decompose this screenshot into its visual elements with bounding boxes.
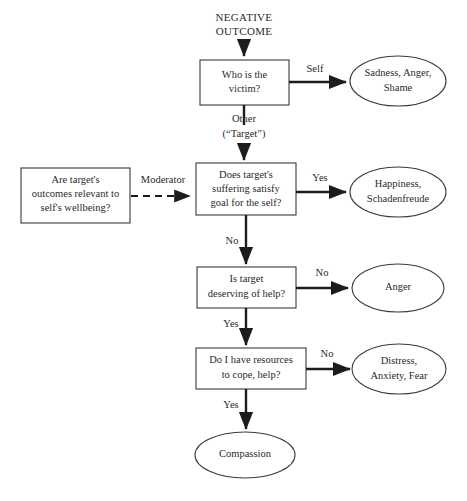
edge-suffering-no-label: No	[226, 235, 239, 246]
start-label-line2: OUTCOME	[216, 25, 273, 37]
edge-victim-to-other-label-line2: (“Target”)	[223, 128, 266, 140]
node-sadness-anger-shame-line-0: Sadness, Anger,	[365, 67, 432, 78]
node-happiness-schadenfreude-line-0: Happiness,	[375, 178, 421, 189]
node-are-targets-outcomes-relevant-line-1: outcomes relevant to	[32, 188, 119, 199]
node-are-targets-outcomes-relevant[interactable]: Are target's outcomes relevant to self's…	[21, 168, 130, 223]
flowchart-svg: NEGATIVE OUTCOME Who is the victim? Self…	[0, 0, 467, 501]
node-who-is-the-victim-line-0: Who is the	[222, 69, 268, 80]
start-label-line1: NEGATIVE	[216, 11, 273, 23]
node-does-target-suffering-satisfy-goal[interactable]: Does target's suffering satisfy goal for…	[196, 163, 296, 215]
node-do-i-have-resources[interactable]: Do I have resources to cope, help?	[196, 348, 306, 389]
node-happiness-schadenfreude-line-1: Schadenfreude	[367, 193, 430, 204]
node-distress-anxiety-fear-line-0: Distress,	[381, 355, 417, 366]
edge-resources-no-label: No	[321, 348, 334, 359]
node-anger[interactable]: Anger	[352, 264, 444, 312]
node-sadness-anger-shame[interactable]: Sadness, Anger, Shame	[350, 56, 446, 106]
node-anger-line-0: Anger	[385, 281, 412, 292]
edge-deserving-no-label: No	[316, 267, 329, 278]
node-distress-anxiety-fear-line-1: Anxiety, Fear	[370, 370, 428, 381]
node-do-i-have-resources-line-1: to cope, help?	[222, 369, 281, 380]
node-are-targets-outcomes-relevant-line-0: Are target's	[51, 174, 99, 185]
edge-deserving-yes-label: Yes	[223, 318, 238, 329]
start-label: NEGATIVE OUTCOME	[216, 11, 273, 37]
node-distress-anxiety-fear-shape	[352, 344, 446, 394]
node-are-targets-outcomes-relevant-line-2: self's wellbeing?	[41, 202, 111, 213]
edge-suffering-yes-label: Yes	[312, 172, 327, 183]
edge-resources-yes-label: Yes	[223, 399, 238, 410]
node-is-target-deserving-of-help-line-1: deserving of help?	[208, 288, 286, 299]
node-happiness-schadenfreude-shape	[350, 167, 446, 217]
node-compassion[interactable]: Compassion	[195, 432, 295, 478]
node-is-target-deserving-of-help-line-0: Is target	[230, 273, 264, 284]
edge-victim-to-self-label: Self	[307, 63, 324, 74]
node-sadness-anger-shame-line-1: Shame	[384, 82, 413, 93]
node-compassion-line-0: Compassion	[219, 448, 272, 459]
node-do-i-have-resources-line-0: Do I have resources	[209, 354, 293, 365]
node-is-target-deserving-of-help[interactable]: Is target deserving of help?	[197, 267, 296, 308]
node-happiness-schadenfreude[interactable]: Happiness, Schadenfreude	[350, 167, 446, 217]
edge-moderator-label: Moderator	[141, 174, 186, 185]
node-distress-anxiety-fear[interactable]: Distress, Anxiety, Fear	[352, 344, 446, 394]
node-does-target-suffering-satisfy-goal-line-1: suffering satisfy	[212, 183, 281, 194]
node-sadness-anger-shame-shape	[350, 56, 446, 106]
node-who-is-the-victim-line-1: victim?	[229, 83, 261, 94]
node-does-target-suffering-satisfy-goal-line-0: Does target's	[219, 169, 273, 180]
node-does-target-suffering-satisfy-goal-line-2: goal for the self?	[211, 197, 282, 208]
flowchart-canvas: NEGATIVE OUTCOME Who is the victim? Self…	[0, 0, 467, 501]
edge-victim-to-other-label-line1: Other	[232, 113, 256, 124]
node-who-is-the-victim[interactable]: Who is the victim?	[200, 60, 289, 105]
